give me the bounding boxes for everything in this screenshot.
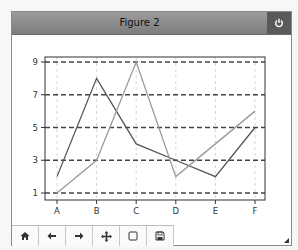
y-tick-label: 3: [33, 155, 38, 165]
back-button[interactable]: [39, 226, 66, 246]
x-tick-label: A: [54, 206, 60, 216]
axes-frame: [45, 57, 265, 200]
x-tick-label: E: [213, 206, 218, 216]
home-icon: [20, 231, 30, 241]
navigation-toolbar: [12, 225, 174, 246]
zoom-rect-button[interactable]: [120, 226, 147, 246]
figure-window: Figure 2 13579ABCDEF: [11, 11, 292, 246]
arrow-left-icon: [47, 231, 57, 241]
floppy-icon: [155, 231, 165, 241]
y-tick-label: 5: [33, 123, 38, 133]
title-bar[interactable]: Figure 2: [12, 12, 291, 35]
save-button[interactable]: [147, 226, 174, 246]
y-tick-label: 7: [33, 90, 38, 100]
figure-canvas[interactable]: 13579ABCDEF: [12, 35, 291, 225]
y-tick-label: 1: [33, 188, 38, 198]
home-button[interactable]: [12, 226, 39, 246]
resize-grip-icon[interactable]: [284, 238, 289, 243]
line-chart: 13579ABCDEF: [12, 35, 291, 225]
x-tick-label: D: [173, 206, 180, 216]
forward-button[interactable]: [66, 226, 93, 246]
power-icon: [274, 18, 284, 28]
square-icon: [128, 231, 138, 241]
move-icon: [101, 231, 112, 242]
x-tick-label: F: [253, 206, 258, 216]
x-tick-label: C: [133, 206, 139, 216]
y-tick-label: 9: [33, 57, 38, 67]
window-title: Figure 2: [12, 12, 267, 34]
arrow-right-icon: [74, 231, 84, 241]
x-tick-label: B: [94, 206, 100, 216]
close-button[interactable]: [267, 12, 291, 34]
pan-button[interactable]: [93, 226, 120, 246]
